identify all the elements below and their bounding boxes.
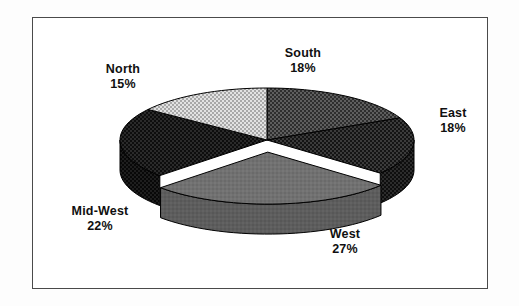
pie-top-faces — [120, 88, 414, 204]
pie-label-south-name: South — [258, 46, 348, 61]
pie-label-west-name: West — [305, 227, 385, 242]
pie-label-north: North 15% — [78, 62, 168, 92]
pie-label-mid-west-value: 22% — [40, 219, 160, 234]
pie-label-south: South 18% — [258, 46, 348, 76]
pie-chart-figure: North 15% South 18% East 18% West 27% Mi… — [0, 0, 519, 306]
pie-label-east: East 18% — [418, 106, 488, 136]
pie-label-east-value: 18% — [418, 121, 488, 136]
pie-label-north-name: North — [78, 62, 168, 77]
pie-label-west-value: 27% — [305, 242, 385, 257]
pie-label-mid-west-name: Mid-West — [40, 204, 160, 219]
pie-label-south-value: 18% — [258, 61, 348, 76]
pie-label-north-value: 15% — [78, 77, 168, 92]
pie-label-west: West 27% — [305, 227, 385, 257]
pie-label-mid-west: Mid-West 22% — [40, 204, 160, 234]
pie-label-east-name: East — [418, 106, 488, 121]
